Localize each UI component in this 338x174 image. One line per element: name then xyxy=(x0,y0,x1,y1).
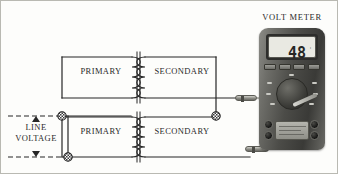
lcd-reading-superscript: ' xyxy=(309,46,312,52)
dial-tick-6 xyxy=(309,103,314,105)
dial-tick-3 xyxy=(270,103,275,105)
label-line-voltage-line1: LINE xyxy=(8,122,64,132)
lcd-reading-value: 48 xyxy=(288,46,306,61)
probe-lower-ring xyxy=(252,147,255,153)
coil-top-secondary xyxy=(137,57,145,98)
dial-tick-4 xyxy=(312,82,317,84)
probe-upper-ring xyxy=(241,96,244,102)
input-jack-bottom-right[interactable] xyxy=(310,131,319,140)
coil-top-primary xyxy=(132,57,140,98)
jack-label-plate xyxy=(275,121,309,140)
meter-button-row[interactable] xyxy=(264,64,320,71)
dial-tick-2 xyxy=(266,93,271,95)
input-jack-top-right[interactable] xyxy=(310,120,319,129)
coil-bot-secondary xyxy=(137,117,145,157)
rotary-dial-pointer xyxy=(292,93,317,107)
probe-upper xyxy=(235,95,257,101)
label-primary-bottom: PRIMARY xyxy=(70,126,132,136)
input-jack-top-left[interactable] xyxy=(264,120,273,129)
label-secondary-bottom: SECONDARY xyxy=(146,126,218,136)
lcd-display: 48 ' xyxy=(268,36,316,58)
rotary-dial-area[interactable] xyxy=(264,73,320,117)
schematic-diagram: PRIMARY SECONDARY PRIMARY SECONDARY LINE… xyxy=(0,0,338,174)
rotary-dial-knob[interactable] xyxy=(276,78,308,110)
input-jack-bottom-left[interactable] xyxy=(264,131,273,140)
label-primary-top: PRIMARY xyxy=(70,66,132,76)
terminal-node-left-bottom xyxy=(64,153,72,161)
dial-tick-1 xyxy=(267,82,272,84)
meter-button-2[interactable] xyxy=(279,64,291,70)
coil-bot-primary xyxy=(132,117,140,157)
terminal-node-left-top xyxy=(58,112,66,120)
label-secondary-top: SECONDARY xyxy=(146,66,218,76)
plate-line-2 xyxy=(279,130,301,131)
label-volt-meter-title: VOLT METER xyxy=(250,12,334,22)
plate-line-3 xyxy=(279,134,304,135)
meter-button-4[interactable] xyxy=(308,64,320,70)
meter-button-3[interactable] xyxy=(293,64,305,70)
plate-line-1 xyxy=(279,126,306,127)
terminal-node-right xyxy=(212,112,220,120)
arrow-line-bottom xyxy=(32,151,40,157)
meter-button-1[interactable] xyxy=(264,64,276,70)
label-line-voltage-line2: VOLTAGE xyxy=(2,133,70,143)
input-jack-panel[interactable] xyxy=(263,120,321,144)
multimeter[interactable]: 48 ' xyxy=(259,28,325,150)
dial-tick-7 xyxy=(289,74,294,76)
